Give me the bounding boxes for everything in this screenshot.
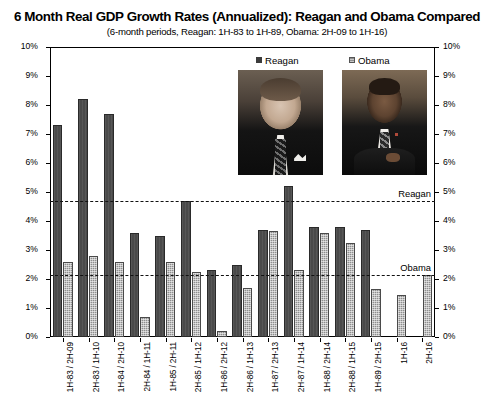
reference-line-label-obama: Obama (398, 262, 433, 273)
x-axis-tick (397, 338, 398, 342)
y-axis-tick (435, 221, 439, 222)
x-axis-tick (371, 338, 372, 342)
y-tick-label-left: 0% (26, 332, 38, 341)
y-tick-label-right: 7% (443, 129, 455, 138)
x-tick-label: 1H-89 / 2H-15 (374, 342, 383, 392)
y-tick-label-left: 5% (26, 187, 38, 196)
reference-lines-container: ReaganObama (50, 47, 435, 337)
y-axis-tick (435, 337, 439, 338)
y-tick-label-right: 0% (443, 332, 455, 341)
y-tick-label-left: 2% (26, 274, 38, 283)
x-tick-label: 2H-85 / 1H-12 (194, 342, 203, 392)
x-axis-tick (422, 338, 423, 342)
x-tick-label: 2H-84 / 1H-11 (143, 342, 152, 392)
x-tick-label: 2H-86 / 1H-13 (246, 342, 255, 392)
x-tick-label: 2H-88 / 1H-15 (348, 342, 357, 392)
y-tick-label-right: 1% (443, 303, 455, 312)
y-axis-tick (435, 163, 439, 164)
y-tick-label-left: 3% (26, 245, 38, 254)
x-tick-label: 1H-83 / 2H-09 (66, 342, 75, 392)
y-tick-label-left: 4% (26, 216, 38, 225)
reference-line-reagan (50, 201, 435, 202)
x-axis-tick (320, 338, 321, 342)
y-axis-tick (435, 308, 439, 309)
y-axis-tick (435, 105, 439, 106)
x-tick-label: 1H-84 / 2H-10 (117, 342, 126, 392)
chart-root: 6 Month Real GDP Growth Rates (Annualize… (0, 0, 494, 402)
chart-title: 6 Month Real GDP Growth Rates (Annualize… (0, 9, 494, 24)
y-axis-tick (435, 250, 439, 251)
y-tick-label-left: 1% (26, 303, 38, 312)
y-tick-label-left: 7% (26, 129, 38, 138)
x-axis-tick (294, 338, 295, 342)
x-tick-label: 2H-87 / 1H-14 (297, 342, 306, 392)
x-tick-label: 2H-16 (425, 342, 434, 364)
y-tick-label-left: 9% (26, 71, 38, 80)
x-tick-label: 1H-85 / 2H-11 (169, 342, 178, 392)
y-tick-label-right: 8% (443, 100, 455, 109)
y-tick-label-left: 8% (26, 100, 38, 109)
y-tick-label-left: 6% (26, 158, 38, 167)
y-tick-label-left: 10% (21, 42, 38, 51)
y-tick-label-right: 4% (443, 216, 455, 225)
y-axis-right: 10%9%8%7%6%5%4%3%2%1%0% (437, 47, 481, 337)
reference-line-obama (50, 275, 435, 276)
x-axis-tick (191, 338, 192, 342)
x-axis-tick (63, 338, 64, 342)
y-axis-tick (435, 279, 439, 280)
x-axis-tick (140, 338, 141, 342)
y-axis-tick (435, 134, 439, 135)
x-axis-tick (268, 338, 269, 342)
x-axis-labels: 1H-83 / 2H-092H-83 / 1H-101H-84 / 2H-102… (50, 338, 435, 402)
x-tick-label: 1H-16 (400, 342, 409, 364)
x-axis-tick (166, 338, 167, 342)
x-axis-tick (217, 338, 218, 342)
x-axis-tick (89, 338, 90, 342)
y-axis-tick (435, 76, 439, 77)
y-tick-label-right: 6% (443, 158, 455, 167)
x-tick-label: 2H-83 / 1H-10 (92, 342, 101, 392)
x-axis-tick (243, 338, 244, 342)
reference-line-label-reagan: Reagan (396, 188, 433, 199)
y-axis-left: 10%9%8%7%6%5%4%3%2%1%0% (0, 47, 44, 337)
y-tick-label-right: 10% (443, 42, 460, 51)
y-axis-tick (435, 192, 439, 193)
x-axis-tick (345, 338, 346, 342)
x-tick-label: 1H-88 / 2H-14 (323, 342, 332, 392)
y-tick-label-right: 3% (443, 245, 455, 254)
y-tick-label-right: 9% (443, 71, 455, 80)
chart-subtitle: (6-month periods, Reagan: 1H-83 to 1H-89… (0, 26, 494, 37)
x-tick-label: 1H-86 / 2H-12 (220, 342, 229, 392)
x-axis-tick (114, 338, 115, 342)
y-tick-label-right: 5% (443, 187, 455, 196)
y-axis-tick (435, 47, 439, 48)
x-tick-label: 1H-87 / 2H-13 (271, 342, 280, 392)
y-tick-label-right: 2% (443, 274, 455, 283)
